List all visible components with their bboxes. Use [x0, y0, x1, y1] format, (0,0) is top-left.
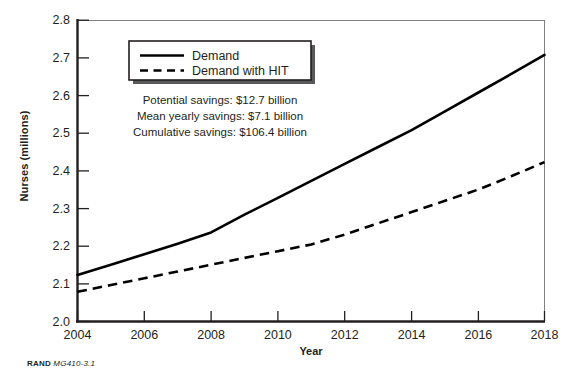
source-brand: RAND: [27, 359, 51, 368]
y-tick-label: 2.7: [30, 52, 70, 64]
y-tick-label: 2.5: [30, 127, 70, 139]
line-chart-plot: Demand Demand with HIT: [0, 0, 580, 384]
x-tick-label: 2010: [248, 328, 308, 342]
y-tick-label: 2.2: [30, 240, 70, 252]
x-tick-label: 2004: [48, 328, 108, 342]
y-axis-tick-labels: 2.8 2.7 2.6 2.5 2.4 2.3 2.2 2.1 2.0: [0, 0, 70, 384]
source-note: RAND MG410-3.1: [27, 359, 95, 368]
savings-annotation-block: Potential savings: $12.7 billion Mean ye…: [106, 93, 334, 140]
legend-label-demand: Demand: [192, 49, 239, 63]
y-axis-ticks: [77, 20, 89, 321]
x-tick-label: 2016: [448, 328, 508, 342]
x-tick-label: 2018: [515, 328, 575, 342]
x-tick-label: 2012: [315, 328, 375, 342]
y-tick-label: 2.0: [30, 316, 70, 328]
y-tick-label: 2.3: [30, 203, 70, 215]
annotation-line: Potential savings: $12.7 billion: [106, 93, 334, 109]
x-axis-title: Year: [77, 345, 545, 357]
annotation-line: Mean yearly savings: $7.1 billion: [106, 109, 334, 125]
x-axis-ticks: [78, 311, 545, 321]
source-id: MG410-3.1: [53, 359, 95, 368]
x-tick-label: 2008: [181, 328, 241, 342]
series-demand-line: [78, 55, 545, 275]
y-tick-label: 2.8: [30, 14, 70, 26]
y-tick-label: 2.1: [30, 278, 70, 290]
annotation-line: Cumulative savings: $106.4 billion: [106, 125, 334, 141]
y-tick-label: 2.6: [30, 90, 70, 102]
y-tick-label: 2.4: [30, 165, 70, 177]
legend-label-demand-with-hit: Demand with HIT: [192, 64, 289, 78]
chart-legend: Demand Demand with HIT: [129, 41, 315, 84]
y-axis-title: Nurses (millions): [18, 86, 30, 226]
x-tick-label: 2006: [114, 328, 174, 342]
chart-figure: Demand Demand with HIT 2.8 2.7 2.6 2.5 2…: [0, 0, 580, 384]
x-tick-label: 2014: [382, 328, 442, 342]
